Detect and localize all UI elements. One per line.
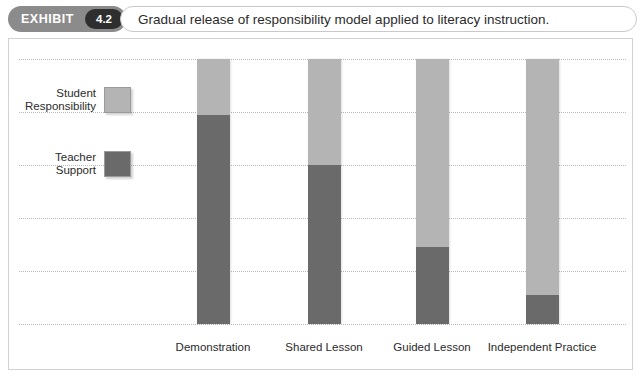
exhibit-number-pill: 4.2 <box>85 9 123 29</box>
bar-demonstration[interactable] <box>197 59 230 324</box>
x-axis-label-independent-practice: Independent Practice <box>488 341 597 353</box>
x-axis-label-guided-lesson: Guided Lesson <box>393 341 470 353</box>
legend-swatch-student-responsibility <box>104 87 131 113</box>
bar-segment-student-responsibility <box>416 59 449 247</box>
exhibit-number-label: 4.2 <box>96 13 112 25</box>
bar-segment-teacher-support <box>197 115 230 324</box>
plot-area: Student ResponsibilityTeacher SupportDem… <box>9 39 632 369</box>
bar-guided-lesson[interactable] <box>416 59 449 324</box>
bar-segment-student-responsibility <box>308 59 341 165</box>
bar-segment-teacher-support <box>526 295 559 324</box>
exhibit-badge-word: EXHIBIT <box>21 12 74 26</box>
legend-item-teacher-support[interactable]: Teacher Support <box>15 151 131 177</box>
exhibit-header: EXHIBIT 4.2 Gradual release of responsib… <box>0 6 643 34</box>
exhibit-title-pill: Gradual release of responsibility model … <box>120 6 637 32</box>
bar-segment-teacher-support <box>416 247 449 324</box>
exhibit-title-text: Gradual release of responsibility model … <box>138 12 549 27</box>
exhibit-badge: EXHIBIT 4.2 <box>8 6 126 32</box>
bar-segment-student-responsibility <box>197 59 230 115</box>
x-axis-label-shared-lesson: Shared Lesson <box>285 341 362 353</box>
bar-independent-practice[interactable] <box>526 59 559 324</box>
gridline <box>19 324 626 325</box>
x-axis-label-demonstration: Demonstration <box>176 341 251 353</box>
legend-label-student-responsibility: Student Responsibility <box>25 87 96 113</box>
bar-shared-lesson[interactable] <box>308 59 341 324</box>
legend-swatch-teacher-support <box>104 151 131 177</box>
chart-panel: Student ResponsibilityTeacher SupportDem… <box>8 38 633 370</box>
legend-item-student-responsibility[interactable]: Student Responsibility <box>15 87 131 113</box>
bar-segment-teacher-support <box>308 165 341 324</box>
legend-label-teacher-support: Teacher Support <box>55 151 96 177</box>
bar-segment-student-responsibility <box>526 59 559 295</box>
